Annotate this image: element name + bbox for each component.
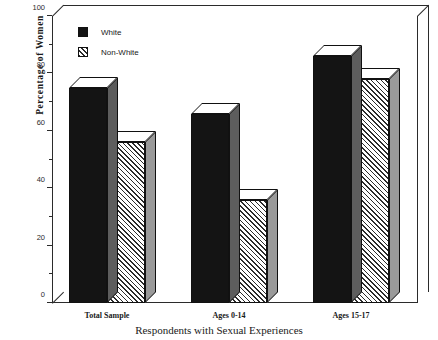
y-tick-label: 60	[37, 117, 45, 126]
y-tick-label: 0	[41, 290, 45, 299]
legend-entry-white: White	[78, 22, 139, 42]
bar-side-face	[267, 189, 278, 303]
bar-white-ages-0-14	[191, 114, 229, 303]
plot-depth-edge-top-left	[52, 5, 64, 17]
y-tick-label: 20	[37, 232, 45, 241]
bar-side-face	[351, 45, 362, 303]
bar-chart-figure: Percentage of Women 020406080100 White N…	[0, 0, 438, 340]
bar-side-face	[145, 131, 156, 303]
legend-label-white: White	[101, 28, 121, 37]
x-axis-title: Respondents with Sexual Experiences	[0, 324, 438, 336]
y-tick-label: 80	[37, 60, 45, 69]
bar-front-face	[69, 88, 107, 303]
x-category-label: Ages 15-17	[332, 311, 369, 320]
plot-back-right-edge	[428, 5, 429, 292]
bar-white-total-sample	[69, 88, 107, 303]
bar-side-face	[229, 103, 240, 303]
y-tick-label: 100	[32, 3, 45, 12]
y-axis-title-container: Percentage of Women	[0, 0, 26, 320]
hatched-swatch-icon	[78, 47, 88, 57]
solid-black-swatch-icon	[78, 27, 88, 37]
bar-front-face	[191, 114, 229, 303]
legend-entry-non-white: Non-White	[78, 42, 139, 62]
bar-side-face	[107, 77, 118, 303]
y-tick-label: 40	[37, 175, 45, 184]
chart-legend: White Non-White	[78, 22, 139, 62]
x-category-label: Ages 0-14	[212, 311, 245, 320]
x-category-label: Total Sample	[85, 311, 130, 320]
plot-back-top-edge	[63, 5, 429, 6]
bar-white-ages-15-17	[313, 56, 351, 303]
bar-front-face	[313, 56, 351, 303]
y-axis-title: Percentage of Women	[35, 0, 45, 165]
bar-side-face	[389, 68, 400, 303]
legend-label-non-white: Non-White	[101, 48, 139, 57]
